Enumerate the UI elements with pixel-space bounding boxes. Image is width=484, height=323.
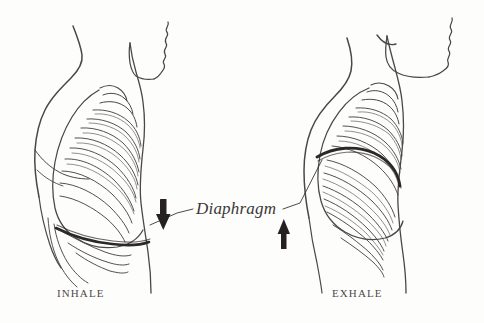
anatomy-line-drawing — [0, 0, 484, 323]
left-front-torso-line — [130, 43, 151, 293]
right-head-profile-icon — [429, 18, 452, 77]
up-arrow-icon — [278, 219, 290, 249]
diaphragm-breathing-illustration: Diaphragm INHALE EXHALE — [0, 0, 484, 323]
caption-exhale: EXHALE — [332, 287, 383, 299]
leader-line-right — [283, 160, 322, 209]
caption-inhale: INHALE — [57, 287, 105, 299]
right-back-lower-line — [309, 218, 322, 293]
right-back-shoulder-line — [304, 38, 352, 218]
leader-line-left — [150, 209, 193, 225]
right-rib-series-lower — [323, 160, 395, 277]
left-head-profile-icon — [154, 22, 168, 79]
left-lower-rib-series — [48, 218, 131, 287]
diaphragm-label: Diaphragm — [196, 199, 276, 219]
left-figure-inhale — [35, 22, 169, 293]
right-rib-echo-series-lower — [323, 166, 393, 255]
right-figure-exhale — [304, 18, 452, 293]
down-arrow-icon — [156, 199, 171, 230]
right-clavicle-line — [371, 83, 398, 99]
left-rib-series — [60, 110, 141, 242]
